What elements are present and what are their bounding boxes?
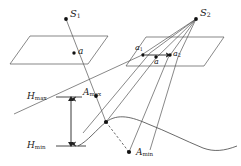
label-source-1: S1 (70, 9, 81, 19)
ray-s2-to-a2 (129, 19, 196, 152)
point-terrain-peak-dot (104, 120, 108, 124)
terrain-curve (78, 117, 237, 151)
label-h-min: Hmin (27, 141, 46, 151)
label-point-a-left: a (78, 47, 83, 56)
point-s2-dot (194, 17, 198, 21)
label-point-a2: a2 (173, 50, 181, 58)
label-h-max: Hmax (27, 92, 47, 102)
label-a-max: Amax (83, 88, 101, 98)
point-a2-dot (168, 53, 171, 56)
geometry-diagram: S1 S2 a a1 a2 a Hmax Hmin Amax Amin (0, 0, 241, 166)
left-plane-parallelogram (10, 36, 108, 64)
dashed-peak-to-amin (106, 122, 129, 152)
point-s1-dot (64, 17, 68, 21)
point-a1-dot (141, 53, 144, 56)
label-source-2: S2 (200, 8, 211, 18)
label-a-min: Amin (136, 148, 153, 158)
ray-s2-to-a-center (106, 19, 196, 122)
point-amin-dot (127, 150, 131, 154)
label-point-a1: a1 (135, 44, 143, 52)
ray-s1-to-terrain (66, 19, 106, 122)
label-point-a-right: a (154, 58, 159, 66)
point-a-left-dot (72, 51, 75, 54)
